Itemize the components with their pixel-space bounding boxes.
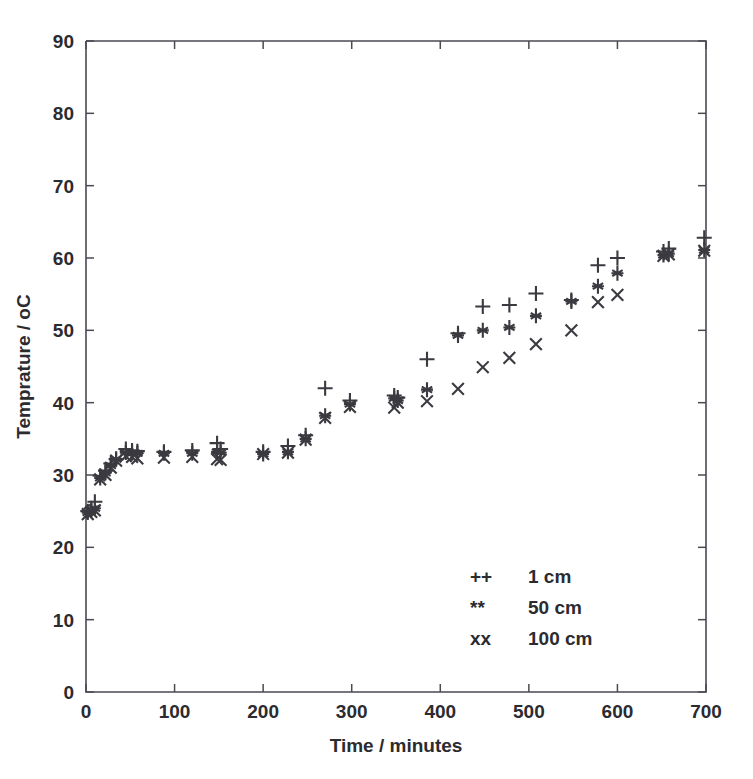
data-point-cross: [477, 361, 489, 373]
x-tick-label: 400: [424, 701, 456, 722]
data-point-asterisk: [421, 382, 433, 397]
x-tick-label: 200: [247, 701, 279, 722]
data-point-asterisk: [530, 308, 542, 323]
data-point-cross: [504, 352, 516, 364]
x-tick-label: 600: [602, 701, 634, 722]
x-tick-label: 700: [690, 701, 722, 722]
y-tick-label: 50: [53, 320, 74, 341]
legend-symbol-1: **: [470, 597, 485, 618]
data-point-cross: [452, 383, 464, 395]
axis-titles: Time / minutesTemprature / oC: [13, 294, 462, 756]
data-point-asterisk: [503, 320, 515, 335]
scatter-plot: 0100200300400500600700 01020304050607080…: [0, 0, 753, 779]
data-point-plus: [528, 286, 543, 301]
data-point-cross: [530, 338, 542, 350]
y-axis-title: Temprature / oC: [13, 294, 34, 439]
legend-label-2: 100 cm: [528, 628, 592, 649]
data-point-asterisk: [565, 294, 577, 309]
legend-label-1: 50 cm: [528, 597, 582, 618]
data-point-plus: [502, 298, 517, 313]
data-point-plus: [420, 352, 435, 367]
legend-symbol-2: xx: [470, 628, 492, 649]
data-point-plus: [590, 258, 605, 273]
data-point-asterisk: [477, 323, 489, 338]
data-point-cross: [592, 296, 604, 308]
y-tick-label: 10: [53, 610, 74, 631]
legend-label-0: 1 cm: [528, 566, 571, 587]
data-point-plus: [475, 299, 490, 314]
x-axis-ticks: 0100200300400500600700: [81, 41, 722, 722]
data-point-cross: [566, 324, 578, 336]
data-point-plus: [318, 381, 333, 396]
data-point-asterisk: [452, 328, 464, 343]
y-tick-label: 60: [53, 248, 74, 269]
data-point-asterisk: [592, 279, 604, 294]
series-100-cm: [82, 245, 710, 520]
y-tick-label: 20: [53, 537, 74, 558]
x-tick-label: 500: [513, 701, 545, 722]
legend-symbol-0: ++: [470, 566, 492, 587]
data-point-plus: [610, 251, 625, 266]
x-axis-title: Time / minutes: [330, 735, 463, 756]
y-tick-label: 70: [53, 176, 74, 197]
data-point-cross: [612, 289, 624, 301]
chart-figure: 0100200300400500600700 01020304050607080…: [0, 0, 753, 779]
data-point-layer: [80, 230, 711, 520]
axis-frame: [86, 41, 706, 692]
y-tick-label: 40: [53, 393, 74, 414]
chart-legend: ++1 cm**50 cmxx100 cm: [470, 566, 592, 649]
x-tick-label: 300: [336, 701, 368, 722]
y-tick-label: 90: [53, 31, 74, 52]
plot-border: [86, 41, 706, 692]
y-tick-label: 80: [53, 103, 74, 124]
y-tick-label: 0: [63, 682, 74, 703]
x-tick-label: 100: [159, 701, 191, 722]
x-tick-label: 0: [81, 701, 92, 722]
series-50-cm: [82, 243, 710, 521]
y-tick-label: 30: [53, 465, 74, 486]
y-axis-ticks: 0102030405060708090: [53, 31, 706, 703]
data-point-asterisk: [611, 266, 623, 281]
